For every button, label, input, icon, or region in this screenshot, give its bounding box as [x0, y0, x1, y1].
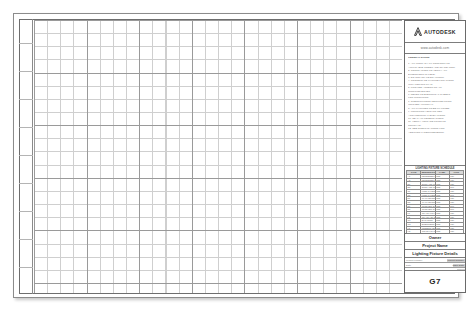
autodesk-wordmark: AUTODESK [424, 29, 456, 35]
table-cell: UNDERCABINET [421, 226, 435, 230]
table-cell: SURFACE MOUNT [421, 182, 435, 186]
sheet-title-field[interactable]: Lighting Fixture Details [405, 250, 465, 258]
project-meta-value: Issue Date [453, 264, 465, 267]
project-name-field[interactable]: Project Name [405, 242, 465, 250]
owner-label: Owner [429, 235, 441, 240]
owner-field[interactable]: Owner [405, 234, 465, 242]
note-line: ADDITIONAL REQUIREMENTS. [408, 131, 463, 134]
table-cell: WALL SCONCE [421, 200, 435, 204]
table-cell: LINEAR PENDANT [421, 189, 435, 193]
table-cell: SURFACE MOUNT [421, 186, 435, 190]
company-url-text: www.autodesk.com [421, 46, 449, 50]
drawing-grid-area[interactable] [34, 20, 402, 293]
sheet-number-field[interactable]: G7 [405, 271, 465, 292]
autodesk-logo: AUTODESK [405, 21, 465, 43]
table-cell: LINEAR PENDANT [421, 193, 435, 197]
table-cell: TRACK HEAD [421, 215, 435, 219]
title-block: AUTODESK www.autodesk.com GENERAL NOTES … [404, 20, 466, 293]
table-cell: TROFFER 2X4 [421, 204, 435, 208]
table-cell: TRACK LIGHT [421, 211, 435, 215]
project-meta-block: Project numberProject NumberDateIssue Da… [405, 258, 465, 271]
project-meta-value: Project Number [447, 259, 465, 262]
general-notes-list: 1. ALL WORK SHALL CONFORM TO APPLICABLE … [408, 62, 463, 134]
project-name-label: Project Name [422, 243, 448, 248]
left-margin-strip [19, 19, 33, 294]
table-cell: WALL SCONCE [421, 197, 435, 201]
company-url: www.autodesk.com [405, 43, 465, 54]
table-cell: EMERGENCY UNIT [421, 223, 435, 227]
autodesk-a-mark-icon [414, 27, 422, 36]
sheet-number-value: G7 [429, 277, 441, 286]
table-cell: TROFFER 2X2 [421, 208, 435, 212]
sheet-title-label: Lighting Fixture Details [412, 251, 458, 256]
drawing-sheet: AUTODESK www.autodesk.com GENERAL NOTES … [13, 13, 459, 298]
fixture-schedule: LIGHTING FIXTURE SCHEDULE TYPEDESCRIPTIO… [405, 166, 465, 234]
project-meta-key: Date [405, 264, 453, 267]
project-meta-key: Project number [405, 259, 447, 262]
table-cell: RECESSED DOWNLIGHT [421, 175, 435, 179]
fixture-schedule-table: TYPEDESCRIPTIONLAMPVOLT A1RECESSED DOWNL… [406, 170, 464, 234]
table-cell: RECESSED DOWNLIGHT [421, 178, 435, 182]
table-column-header: DESCRIPTION [421, 171, 435, 175]
general-notes-block: GENERAL NOTES 1. ALL WORK SHALL CONFORM … [405, 54, 465, 166]
